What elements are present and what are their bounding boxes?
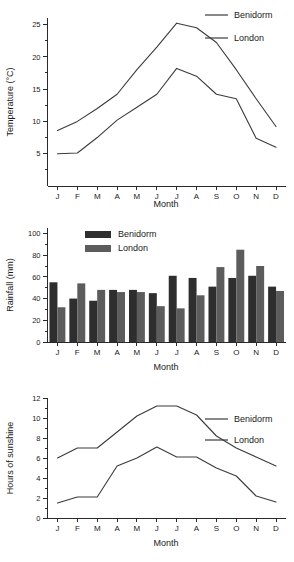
y-tick-label: 5 (36, 149, 40, 158)
x-tick-label-month: A (114, 524, 120, 533)
x-tick-label-month: A (194, 192, 200, 201)
x-tick-label-month: F (75, 524, 80, 533)
y-tick-label: 10 (32, 414, 40, 423)
x-tick-label-month: S (214, 192, 219, 201)
bar-london-m-4 (137, 292, 145, 342)
bar-benidorm-f-1 (69, 299, 77, 342)
y-tick-label: 25 (32, 20, 40, 29)
sunshine-x-ticks: JFMAMJJASOND (56, 518, 280, 533)
x-tick-label-month: J (155, 348, 159, 357)
bar-london-j-6 (177, 308, 185, 342)
bar-london-d-11 (276, 291, 284, 342)
y-tick-label: 2 (36, 494, 40, 503)
x-tick-label-month: M (94, 192, 101, 201)
temperature-chart-svg: 510152025 JFMAMJJASOND Temperature (°C) … (0, 0, 294, 212)
x-tick-label-month: M (134, 524, 141, 533)
x-tick-label-month: A (194, 524, 200, 533)
x-tick-label-month: N (253, 192, 259, 201)
y-tick-label: 10 (32, 117, 40, 126)
y-tick-label: 12 (32, 394, 40, 403)
rainfall-chart-svg: 020406080100 JFMAMJJASOND Rainfall (mm) … (0, 212, 294, 390)
temperature-legend: Benidorm London (205, 10, 273, 43)
x-tick-label-month: J (155, 524, 159, 533)
x-tick-label-month: M (134, 192, 141, 201)
legend-label-london: London (118, 243, 148, 253)
rainfall-chart: 020406080100 JFMAMJJASOND Rainfall (mm) … (0, 212, 294, 390)
bar-benidorm-j-6 (169, 276, 177, 342)
legend-swatch-london (85, 245, 111, 252)
temperature-x-axis-title: Month (153, 199, 178, 209)
bar-benidorm-j-5 (149, 293, 157, 342)
bar-benidorm-j-0 (49, 282, 57, 342)
bar-london-j-0 (57, 307, 65, 342)
series-line-london (58, 447, 277, 503)
bar-benidorm-m-2 (89, 301, 97, 342)
legend-swatch-benidorm (85, 231, 111, 238)
legend-label-london: London (234, 435, 264, 445)
x-tick-label-month: D (273, 524, 279, 533)
y-tick-label: 60 (32, 273, 40, 282)
rainfall-bars (49, 250, 284, 342)
x-tick-label-month: O (233, 192, 239, 201)
y-tick-label: 20 (32, 316, 40, 325)
temperature-y-axis-title: Temperature (°C) (5, 67, 15, 136)
rainfall-y-axis-title: Rainfall (mm) (5, 258, 15, 312)
x-tick-label-month: A (114, 192, 120, 201)
x-tick-label-month: F (75, 192, 80, 201)
bar-benidorm-a-7 (189, 278, 197, 342)
x-tick-label-month: S (214, 524, 219, 533)
legend-label-benidorm: Benidorm (234, 10, 273, 20)
y-tick-label: 4 (36, 474, 40, 483)
x-tick-label-month: J (56, 192, 60, 201)
bar-london-j-5 (157, 306, 165, 342)
bar-london-o-9 (236, 250, 244, 342)
x-tick-label-month: M (134, 348, 141, 357)
x-tick-label-month: N (253, 348, 259, 357)
temperature-y-ticks: 510152025 (32, 20, 47, 170)
rainfall-x-axis-title: Month (153, 362, 178, 372)
y-tick-label: 100 (28, 229, 41, 238)
rainfall-x-ticks: JFMAMJJASOND (55, 342, 279, 357)
sunshine-legend: Benidorm London (205, 414, 273, 445)
sunshine-x-axis-title: Month (153, 538, 178, 548)
bar-london-n-10 (256, 266, 264, 342)
bar-london-a-3 (117, 292, 125, 342)
y-tick-label: 40 (32, 294, 40, 303)
y-tick-label: 15 (32, 85, 40, 94)
x-tick-label-month: D (273, 192, 279, 201)
x-tick-label-month: F (75, 348, 80, 357)
temperature-chart: 510152025 JFMAMJJASOND Temperature (°C) … (0, 0, 294, 212)
bar-benidorm-a-3 (109, 290, 117, 342)
legend-label-benidorm: Benidorm (234, 414, 273, 424)
y-tick-label: 8 (36, 434, 40, 443)
series-line-london (58, 68, 277, 153)
x-tick-label-month: O (233, 348, 239, 357)
x-tick-label-month: A (194, 348, 200, 357)
y-tick-label: 0 (36, 514, 40, 523)
bar-benidorm-o-9 (228, 278, 236, 342)
x-tick-label-month: M (94, 524, 101, 533)
bar-benidorm-s-8 (208, 287, 216, 342)
bar-benidorm-m-4 (129, 290, 137, 342)
rainfall-legend: Benidorm London (85, 229, 157, 253)
x-tick-label-month: J (56, 524, 60, 533)
legend-label-benidorm: Benidorm (118, 229, 157, 239)
y-tick-label: 0 (36, 338, 40, 347)
bar-london-s-8 (216, 267, 224, 342)
legend-label-london: London (234, 33, 264, 43)
rainfall-y-ticks: 020406080100 (28, 229, 48, 347)
x-tick-label-month: M (94, 348, 101, 357)
bar-london-m-2 (97, 290, 105, 342)
x-tick-label-month: S (214, 348, 219, 357)
x-tick-label-month: J (55, 348, 59, 357)
x-tick-label-month: J (175, 524, 179, 533)
x-tick-label-month: O (233, 524, 239, 533)
y-tick-label: 80 (32, 251, 40, 260)
bar-london-f-1 (77, 283, 85, 342)
y-tick-label: 20 (32, 53, 40, 62)
bar-benidorm-d-11 (268, 287, 276, 342)
sunshine-y-axis-title: Hours of sunshine (5, 422, 15, 495)
sunshine-chart: 024681012 JFMAMJJASOND Hours of sunshine… (0, 390, 294, 562)
temperature-axes (48, 18, 287, 187)
bar-london-a-7 (197, 295, 205, 342)
